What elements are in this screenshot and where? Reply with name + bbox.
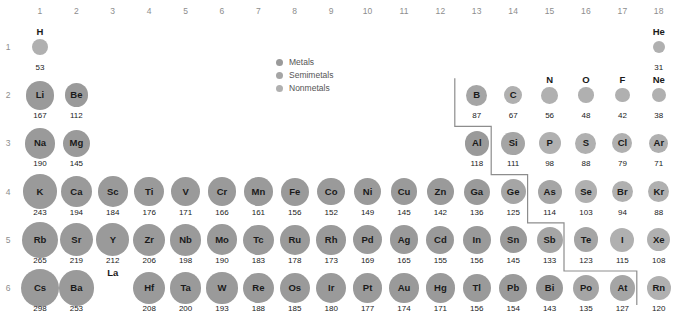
element-k[interactable]: K243 bbox=[21, 169, 59, 221]
element-value-co: 152 bbox=[312, 209, 350, 217]
element-fe[interactable]: Fe156 bbox=[276, 169, 314, 221]
element-ta[interactable]: Ta200 bbox=[167, 265, 205, 315]
element-value-cs: 298 bbox=[21, 305, 59, 313]
element-o[interactable]: O48 bbox=[567, 72, 605, 124]
element-value-fe: 156 bbox=[276, 209, 314, 217]
element-value-ba: 253 bbox=[57, 305, 95, 313]
element-mo[interactable]: Mo190 bbox=[203, 217, 241, 269]
element-ru[interactable]: Ru178 bbox=[276, 217, 314, 269]
element-al[interactable]: Al118 bbox=[458, 120, 496, 172]
element-hf[interactable]: Hf208 bbox=[130, 265, 168, 315]
element-pb[interactable]: Pb154 bbox=[494, 265, 532, 315]
element-i[interactable]: I115 bbox=[603, 217, 641, 269]
element-ag[interactable]: Ag165 bbox=[385, 217, 423, 269]
element-au[interactable]: Au174 bbox=[385, 265, 423, 315]
element-ge[interactable]: Ge125 bbox=[494, 169, 532, 221]
element-symbol-p: P bbox=[531, 138, 569, 148]
element-symbol-re: Re bbox=[239, 283, 277, 293]
element-xe[interactable]: Xe108 bbox=[640, 217, 678, 269]
legend-label-metals: Metals bbox=[289, 57, 314, 67]
element-cr[interactable]: Cr166 bbox=[203, 169, 241, 221]
element-cd[interactable]: Cd155 bbox=[421, 217, 459, 269]
element-zn[interactable]: Zn142 bbox=[421, 169, 459, 221]
element-value-n: 56 bbox=[531, 112, 569, 120]
element-pd[interactable]: Pd169 bbox=[349, 217, 387, 269]
element-symbol-cd: Cd bbox=[421, 235, 459, 245]
element-he[interactable]: He31 bbox=[640, 24, 678, 76]
element-po[interactable]: Po135 bbox=[567, 265, 605, 315]
element-ga[interactable]: Ga136 bbox=[458, 169, 496, 221]
element-rb[interactable]: Rb265 bbox=[21, 217, 59, 269]
element-ne[interactable]: Ne38 bbox=[640, 72, 678, 124]
element-symbol-rn: Rn bbox=[640, 283, 678, 293]
element-cl[interactable]: Cl79 bbox=[603, 120, 641, 172]
element-p[interactable]: P98 bbox=[531, 120, 569, 172]
element-sr[interactable]: Sr219 bbox=[57, 217, 95, 269]
element-s[interactable]: S88 bbox=[567, 120, 605, 172]
element-se[interactable]: Se103 bbox=[567, 169, 605, 221]
group-header-18: 18 bbox=[640, 6, 678, 16]
element-y[interactable]: Y212 bbox=[94, 217, 132, 269]
element-si[interactable]: Si111 bbox=[494, 120, 532, 172]
element-rn[interactable]: Rn120 bbox=[640, 265, 678, 315]
element-li[interactable]: Li167 bbox=[21, 72, 59, 124]
element-symbol-hg: Hg bbox=[421, 283, 459, 293]
element-sc[interactable]: Sc184 bbox=[94, 169, 132, 221]
element-bi[interactable]: Bi143 bbox=[531, 265, 569, 315]
element-at[interactable]: At127 bbox=[603, 265, 641, 315]
element-b[interactable]: B87 bbox=[458, 72, 496, 124]
element-tl[interactable]: Tl156 bbox=[458, 265, 496, 315]
element-re[interactable]: Re188 bbox=[239, 265, 277, 315]
element-value-ti: 176 bbox=[130, 209, 168, 217]
element-be[interactable]: Be112 bbox=[57, 72, 95, 124]
group-header-17: 17 bbox=[603, 6, 641, 16]
element-w[interactable]: W193 bbox=[203, 265, 241, 315]
element-symbol-mn: Mn bbox=[239, 187, 277, 197]
element-hg[interactable]: Hg171 bbox=[421, 265, 459, 315]
element-cs[interactable]: Cs298 bbox=[21, 265, 59, 315]
element-pt[interactable]: Pt177 bbox=[349, 265, 387, 315]
element-rh[interactable]: Rh173 bbox=[312, 217, 350, 269]
element-symbol-he: He bbox=[640, 27, 678, 37]
element-sn[interactable]: Sn145 bbox=[494, 217, 532, 269]
element-te[interactable]: Te123 bbox=[567, 217, 605, 269]
element-kr[interactable]: Kr88 bbox=[640, 169, 678, 221]
element-symbol-n: N bbox=[531, 75, 569, 85]
element-symbol-au: Au bbox=[385, 283, 423, 293]
element-value-ir: 180 bbox=[312, 305, 350, 313]
element-zr[interactable]: Zr206 bbox=[130, 217, 168, 269]
element-ti[interactable]: Ti176 bbox=[130, 169, 168, 221]
element-h[interactable]: H53 bbox=[21, 24, 59, 76]
element-ir[interactable]: Ir180 bbox=[312, 265, 350, 315]
element-symbol-sc: Sc bbox=[94, 187, 132, 197]
element-mg[interactable]: Mg145 bbox=[57, 120, 95, 172]
element-ca[interactable]: Ca194 bbox=[57, 169, 95, 221]
element-symbol-ta: Ta bbox=[167, 283, 205, 293]
element-co[interactable]: Co152 bbox=[312, 169, 350, 221]
element-c[interactable]: C67 bbox=[494, 72, 532, 124]
element-symbol-te: Te bbox=[567, 235, 605, 245]
element-tc[interactable]: Tc183 bbox=[239, 217, 277, 269]
element-cu[interactable]: Cu145 bbox=[385, 169, 423, 221]
element-os[interactable]: Os185 bbox=[276, 265, 314, 315]
element-la[interactable]: La bbox=[94, 265, 132, 315]
legend-item-metals: Metals bbox=[276, 56, 333, 68]
element-in[interactable]: In156 bbox=[458, 217, 496, 269]
element-f[interactable]: F42 bbox=[603, 72, 641, 124]
element-sb[interactable]: Sb133 bbox=[531, 217, 569, 269]
element-br[interactable]: Br94 bbox=[603, 169, 641, 221]
element-ni[interactable]: Ni149 bbox=[349, 169, 387, 221]
element-value-as: 114 bbox=[531, 209, 569, 217]
element-value-rn: 120 bbox=[640, 305, 678, 313]
element-ba[interactable]: Ba253 bbox=[57, 265, 95, 315]
element-value-ge: 125 bbox=[494, 209, 532, 217]
element-symbol-sr: Sr bbox=[57, 235, 95, 245]
element-n[interactable]: N56 bbox=[531, 72, 569, 124]
group-header-6: 6 bbox=[203, 6, 241, 16]
element-ar[interactable]: Ar71 bbox=[640, 120, 678, 172]
element-nb[interactable]: Nb198 bbox=[167, 217, 205, 269]
element-mn[interactable]: Mn161 bbox=[239, 169, 277, 221]
element-v[interactable]: V171 bbox=[167, 169, 205, 221]
element-na[interactable]: Na190 bbox=[21, 120, 59, 172]
element-as[interactable]: As114 bbox=[531, 169, 569, 221]
